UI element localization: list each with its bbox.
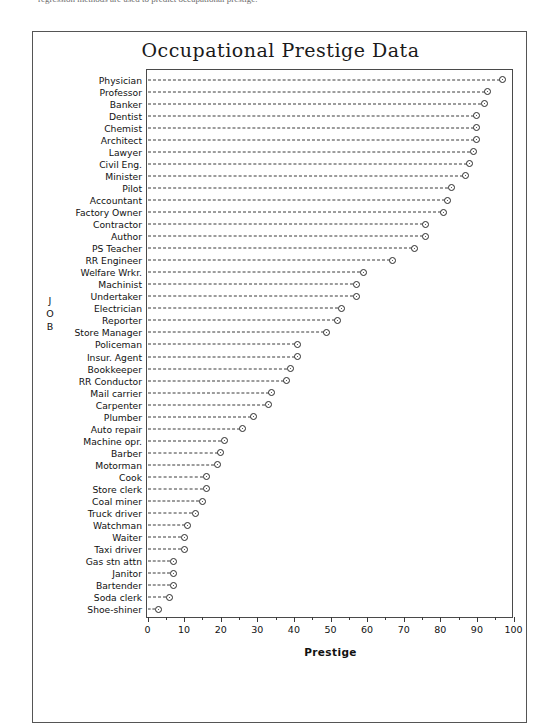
chart-row: Machinist <box>147 278 512 290</box>
leader-line <box>148 464 214 465</box>
leader-line <box>148 356 295 357</box>
category-label: Truck driver <box>88 508 142 519</box>
leader-line <box>148 392 269 393</box>
leader-line <box>148 224 423 225</box>
data-point-marker <box>473 112 480 119</box>
category-label: Factory Owner <box>76 207 142 218</box>
leader-line <box>148 187 448 188</box>
category-label: RR Engineer <box>85 255 142 266</box>
data-point-marker <box>444 197 451 204</box>
data-point-marker <box>265 401 272 408</box>
x-axis-tick-label: 40 <box>288 624 300 635</box>
category-label: Soda clerk <box>94 592 142 603</box>
category-label: Author <box>111 231 142 242</box>
chart-row: Plumber <box>147 411 512 423</box>
chart-row: Architect <box>147 134 512 146</box>
chart-row: Barber <box>147 447 512 459</box>
chart-row: Contractor <box>147 218 512 230</box>
category-label: Auto repair <box>91 423 142 434</box>
leader-line <box>148 561 170 562</box>
chart-row: Gas stn attn <box>147 555 512 567</box>
x-axis-minor-tick <box>276 617 277 620</box>
x-axis-tick <box>221 617 222 622</box>
leader-line <box>148 284 353 285</box>
data-point-marker <box>481 100 488 107</box>
leader-line <box>148 344 295 345</box>
data-point-marker <box>499 76 506 83</box>
category-label: Machinist <box>98 279 142 290</box>
data-point-marker <box>448 184 455 191</box>
x-axis-tick <box>148 617 149 622</box>
chart-row: Lawyer <box>147 146 512 158</box>
data-point-marker <box>338 305 345 312</box>
x-axis-minor-tick <box>385 617 386 620</box>
leader-line <box>148 585 170 586</box>
data-point-marker <box>239 425 246 432</box>
y-axis-title-letter: J <box>43 294 57 307</box>
chart-row: Chemist <box>147 122 512 134</box>
data-point-marker <box>192 510 199 517</box>
chart-row: Janitor <box>147 567 512 579</box>
x-axis-title: Prestige <box>147 646 514 658</box>
leader-line <box>148 368 287 369</box>
category-label: Shoe-shiner <box>87 604 142 615</box>
chart-row: Motorman <box>147 459 512 471</box>
x-axis-tick-label: 20 <box>215 624 227 635</box>
leader-line <box>148 320 335 321</box>
category-label: Plumber <box>104 411 142 422</box>
data-point-marker <box>294 341 301 348</box>
data-point-marker <box>411 245 418 252</box>
category-label: Professor <box>100 86 142 97</box>
chart-row: Carpenter <box>147 399 512 411</box>
category-label: Barber <box>111 447 142 458</box>
data-point-marker <box>214 461 221 468</box>
chart-row: Mail carrier <box>147 387 512 399</box>
x-axis-minor-tick <box>349 617 350 620</box>
x-axis-tick <box>367 617 368 622</box>
category-label: Janitor <box>112 568 142 579</box>
leader-line <box>148 380 284 381</box>
data-point-marker <box>323 329 330 336</box>
chart-row: Store Manager <box>147 326 512 338</box>
x-axis-minor-tick <box>166 617 167 620</box>
leader-line <box>148 452 218 453</box>
data-point-marker <box>283 377 290 384</box>
x-axis-tick-label: 80 <box>434 624 446 635</box>
data-point-marker <box>268 389 275 396</box>
data-point-marker <box>203 485 210 492</box>
category-label: Architect <box>101 134 142 145</box>
y-axis-title-letter: O <box>43 307 57 320</box>
chart-row: Physician <box>147 74 512 86</box>
category-label: Reporter <box>102 315 142 326</box>
leader-line <box>148 115 474 116</box>
chart-row: Professor <box>147 86 512 98</box>
category-label: Gas stn attn <box>86 556 142 567</box>
chart-row: Dentist <box>147 110 512 122</box>
leader-line <box>148 127 474 128</box>
category-label: Motorman <box>95 459 142 470</box>
leader-line <box>148 151 470 152</box>
leader-line <box>148 549 181 550</box>
chart-row: Auto repair <box>147 423 512 435</box>
x-axis-tick <box>477 617 478 622</box>
leader-line <box>148 175 463 176</box>
figure-frame: Occupational Prestige Data J O B Physici… <box>32 31 527 723</box>
x-axis-minor-tick <box>202 617 203 620</box>
leader-line <box>148 440 221 441</box>
data-point-marker <box>199 498 206 505</box>
chart-row: Soda clerk <box>147 591 512 603</box>
leader-line <box>148 513 192 514</box>
x-axis-tick-label: 100 <box>504 624 522 635</box>
category-label: Bartender <box>96 580 142 591</box>
category-label: Banker <box>110 98 142 109</box>
data-point-marker <box>353 293 360 300</box>
leader-line <box>148 428 240 429</box>
chart-row: Reporter <box>147 314 512 326</box>
chart-row: Welfare Wrkr. <box>147 266 512 278</box>
y-axis-title-letter: B <box>43 320 57 333</box>
x-axis-tick-label: 0 <box>144 624 150 635</box>
chart-row: Machine opr. <box>147 435 512 447</box>
leader-line <box>148 597 166 598</box>
chart-row: Electrician <box>147 302 512 314</box>
x-axis-minor-tick <box>312 617 313 620</box>
